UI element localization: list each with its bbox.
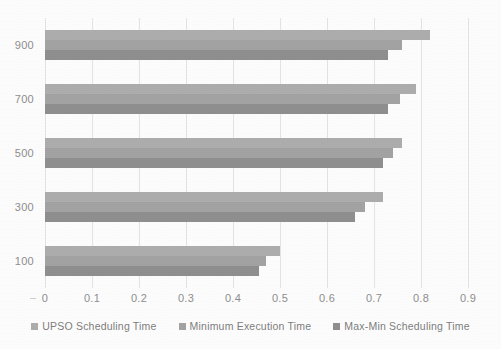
bar-700-series-3[interactable]	[45, 104, 388, 114]
x-axis-left-tick-mark	[30, 298, 36, 299]
bar-group-300	[45, 180, 468, 234]
chart-legend: UPSO Scheduling TimeMinimum Execution Ti…	[0, 320, 501, 332]
bar-900-series-3[interactable]	[45, 50, 388, 60]
y-axis-tick-500: 500	[15, 147, 34, 159]
legend-item-3[interactable]: Max-Min Scheduling Time	[333, 320, 469, 332]
bar-500-series-1[interactable]	[45, 138, 402, 148]
bar-100-series-2[interactable]	[45, 256, 266, 266]
y-axis: 900700500300100	[0, 18, 42, 288]
x-axis: 00.10.20.30.40.50.60.70.80.9	[45, 292, 468, 310]
plot-area	[45, 18, 468, 288]
x-axis-tick-0.3: 0.3	[178, 292, 194, 304]
bar-group-700	[45, 72, 468, 126]
bar-500-series-2[interactable]	[45, 148, 393, 158]
x-axis-tick-0.6: 0.6	[319, 292, 335, 304]
bar-300-series-2[interactable]	[45, 202, 365, 212]
bar-300-series-3[interactable]	[45, 212, 355, 222]
bar-100-series-1[interactable]	[45, 246, 280, 256]
legend-label: Minimum Execution Time	[190, 320, 312, 332]
legend-swatch-icon	[31, 323, 38, 330]
legend-label: Max-Min Scheduling Time	[344, 320, 469, 332]
bar-chart: 900700500300100 00.10.20.30.40.50.60.70.…	[0, 0, 501, 349]
x-axis-tick-0.4: 0.4	[225, 292, 241, 304]
y-axis-tick-700: 700	[15, 93, 34, 105]
legend-swatch-icon	[179, 323, 186, 330]
x-axis-tick-0.7: 0.7	[366, 292, 382, 304]
legend-label: UPSO Scheduling Time	[42, 320, 156, 332]
bar-group-100	[45, 234, 468, 288]
x-axis-tick-0.8: 0.8	[413, 292, 429, 304]
gridline	[468, 18, 469, 288]
y-axis-tick-100: 100	[15, 255, 34, 267]
bar-300-series-1[interactable]	[45, 192, 383, 202]
x-axis-tick-0.1: 0.1	[84, 292, 100, 304]
legend-item-2[interactable]: Minimum Execution Time	[179, 320, 312, 332]
bar-900-series-2[interactable]	[45, 40, 402, 50]
y-axis-tick-900: 900	[15, 39, 34, 51]
x-axis-tick-0.5: 0.5	[272, 292, 288, 304]
bar-700-series-2[interactable]	[45, 94, 400, 104]
x-axis-tick-0.9: 0.9	[460, 292, 476, 304]
bar-group-500	[45, 126, 468, 180]
bar-500-series-3[interactable]	[45, 158, 383, 168]
bar-700-series-1[interactable]	[45, 84, 416, 94]
legend-swatch-icon	[333, 323, 340, 330]
y-axis-tick-300: 300	[15, 201, 34, 213]
bar-group-900	[45, 18, 468, 72]
x-axis-tick-0: 0	[42, 292, 48, 304]
bar-900-series-1[interactable]	[45, 30, 430, 40]
bar-100-series-3[interactable]	[45, 266, 259, 276]
x-axis-tick-0.2: 0.2	[131, 292, 147, 304]
legend-item-1[interactable]: UPSO Scheduling Time	[31, 320, 156, 332]
